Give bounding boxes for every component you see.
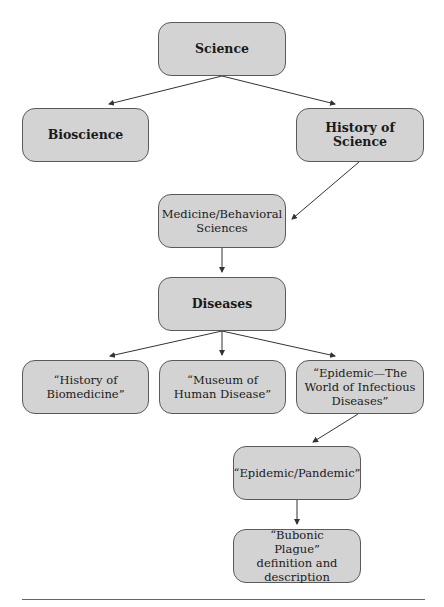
node-museum-of-human-disease: “Museum of Human Disease”: [159, 360, 286, 414]
node-bioscience: Bioscience: [22, 108, 149, 162]
edge-science-bioscience: [109, 76, 222, 104]
bottom-rule: [22, 599, 425, 600]
node-diseases: Diseases: [158, 277, 286, 331]
edge-diseases-epidemic-world: [222, 331, 335, 356]
edge-science-history: [222, 76, 335, 104]
node-epidemic-pandemic: “Epidemic/Pandemic”: [233, 446, 361, 500]
edge-diseases-biomedicine: [110, 331, 222, 356]
node-medicine-behavioral-sciences: Medicine/Behavioral Sciences: [158, 194, 286, 248]
node-history-of-biomedicine: “History of Biomedicine”: [22, 360, 149, 414]
node-science: Science: [158, 22, 286, 76]
edge-epidemic-world-pandemic: [313, 414, 358, 442]
edge-history-medicine: [292, 162, 359, 219]
node-epidemic-world-infectious-diseases: “Epidemic—The World of Infectious Diseas…: [296, 360, 424, 414]
node-bubonic-plague: “Bubonic Plague” definition and descript…: [233, 529, 361, 583]
node-history-of-science: History of Science: [296, 108, 424, 162]
